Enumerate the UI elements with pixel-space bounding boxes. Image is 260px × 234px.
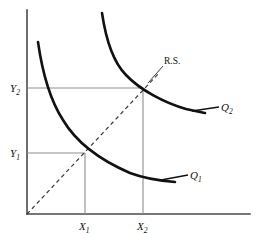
economics-diagram: Y2 Y1 X1 X2 Q1 Q2 R.S.: [0, 0, 260, 234]
axis-label-x2: X2: [136, 220, 148, 234]
curve-label-q1: Q1: [190, 169, 202, 184]
curve-q2: [102, 13, 205, 113]
axis-label-y1: Y1: [10, 147, 20, 162]
curve-q1: [38, 42, 175, 182]
leader-line-q1: [161, 175, 188, 180]
expansion-path-ray: [27, 72, 160, 214]
ray-label-rs: R.S.: [164, 56, 180, 66]
curve-label-q2: Q2: [221, 101, 233, 116]
plot-area: Y2 Y1 X1 X2 Q1 Q2 R.S.: [0, 0, 260, 234]
axis-label-x1: X1: [78, 220, 89, 234]
leader-line-q2: [192, 107, 219, 111]
axis-label-y2: Y2: [10, 82, 20, 97]
leader-line-rs: [148, 66, 163, 83]
